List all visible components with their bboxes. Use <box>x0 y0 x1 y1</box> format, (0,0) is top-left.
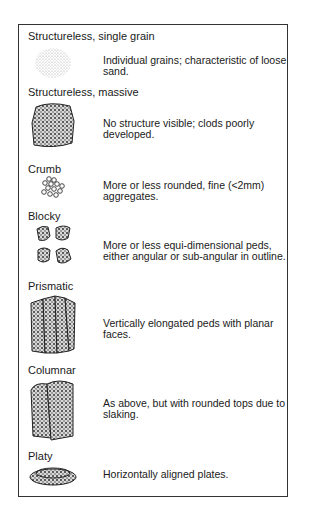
item-description-crumb: More or less rounded, fine (<2mm) aggreg… <box>103 180 288 202</box>
item-label-crumb: Crumb <box>28 163 61 175</box>
item-label-prismatic: Prismatic <box>28 280 73 292</box>
item-description-columnar: As above, but with rounded tops due to s… <box>103 398 288 420</box>
crumb-aggregates-icon <box>40 176 70 198</box>
massive-clod-icon <box>30 101 76 149</box>
item-description-prismatic: Vertically elongated peds with planar fa… <box>103 318 288 340</box>
item-description-massive: No structure visible; clods poorly devel… <box>103 118 288 140</box>
item-label-columnar: Columnar <box>28 364 76 376</box>
item-label-blocky: Blocky <box>28 210 60 222</box>
item-description-platy: Horizontally aligned plates. <box>103 469 288 480</box>
item-description-blocky: More or less equi-dimensional peds, eith… <box>103 240 288 262</box>
item-label-massive: Structureless, massive <box>28 86 139 98</box>
scattered-grains-icon <box>33 46 73 80</box>
item-label-platy: Platy <box>28 450 52 462</box>
item-label-single-grain: Structureless, single grain <box>28 30 155 42</box>
platy-plates-icon <box>28 463 78 487</box>
blocky-peds-icon <box>34 224 74 268</box>
prismatic-peds-icon <box>29 295 77 355</box>
columnar-peds-icon <box>29 378 77 442</box>
item-description-single-grain: Individual grains; characteristic of loo… <box>103 55 288 77</box>
